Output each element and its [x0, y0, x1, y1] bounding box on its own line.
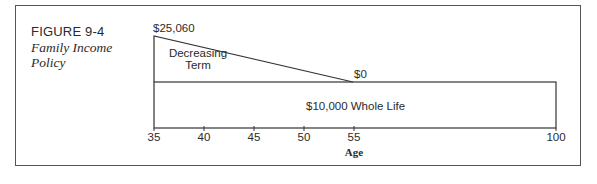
decreasing-term-label: Decreasing Term: [166, 47, 230, 71]
tick-label: 100: [546, 131, 565, 143]
decreasing-term-line-2: Term: [166, 59, 230, 71]
tick-label: 55: [348, 131, 361, 143]
decreasing-term-line-1: Decreasing: [166, 47, 230, 59]
policy-diagram: [0, 0, 597, 184]
top-value-label: $25,060: [153, 22, 195, 34]
tick-label: 35: [148, 131, 161, 143]
tick-label: 40: [198, 131, 211, 143]
end-value-label: $0: [354, 68, 367, 80]
tick-label: 50: [298, 131, 311, 143]
whole-life-label: $10,000 Whole Life: [306, 100, 405, 112]
axis-title: Age: [345, 146, 363, 158]
tick-label: 45: [248, 131, 261, 143]
